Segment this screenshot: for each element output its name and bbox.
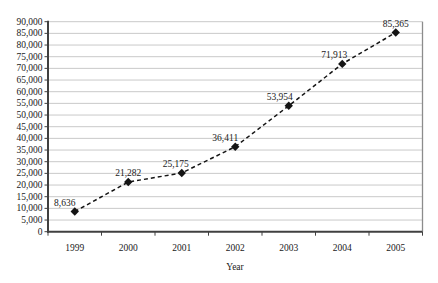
data-point-label: 21,282 xyxy=(115,168,141,178)
y-tick-label: 10,000 xyxy=(16,203,42,213)
axes-layer xyxy=(45,21,423,236)
y-tick-label: 85,000 xyxy=(16,28,42,38)
data-point-label: 71,913 xyxy=(321,50,347,60)
y-tick-label: 25,000 xyxy=(16,168,42,178)
data-point-marker xyxy=(392,28,400,36)
y-tick-label: 60,000 xyxy=(16,87,42,97)
data-point-label: 53,954 xyxy=(267,92,293,102)
data-point-marker xyxy=(178,169,186,177)
y-tick-label: 50,000 xyxy=(16,110,42,120)
y-tick-label: 20,000 xyxy=(16,180,42,190)
x-tick-label: 2002 xyxy=(226,243,245,253)
x-tick-label: 1999 xyxy=(65,243,84,253)
y-tick-label: 40,000 xyxy=(16,133,42,143)
x-tick-label: 2001 xyxy=(172,243,191,253)
data-point-label: 8,636 xyxy=(54,198,76,208)
y-tick-label: 45,000 xyxy=(16,122,42,132)
x-tick-label: 2005 xyxy=(386,243,405,253)
y-tick-label: 90,000 xyxy=(16,17,42,27)
x-tick-label: 2000 xyxy=(119,243,138,253)
labels-layer: 05,00010,00015,00020,00025,00030,00035,0… xyxy=(16,17,409,254)
y-tick-label: 30,000 xyxy=(16,157,42,167)
y-tick-label: 0 xyxy=(38,227,43,237)
x-tick-label: 2004 xyxy=(333,243,352,253)
y-tick-label: 35,000 xyxy=(16,145,42,155)
chart-figure: 05,00010,00015,00020,00025,00030,00035,0… xyxy=(0,0,438,283)
y-tick-label: 75,000 xyxy=(16,52,42,62)
data-point-marker xyxy=(338,60,346,68)
y-tick-label: 70,000 xyxy=(16,63,42,73)
y-tick-label: 55,000 xyxy=(16,98,42,108)
gridlines-layer xyxy=(48,22,423,232)
line-chart: 05,00010,00015,00020,00025,00030,00035,0… xyxy=(0,0,438,283)
y-tick-label: 65,000 xyxy=(16,75,42,85)
x-tick-label: 2003 xyxy=(279,243,298,253)
data-point-label: 36,411 xyxy=(212,133,238,143)
y-tick-label: 5,000 xyxy=(21,215,43,225)
x-axis-title: Year xyxy=(226,262,244,272)
y-tick-label: 15,000 xyxy=(16,192,42,202)
data-point-label: 25,175 xyxy=(163,159,189,169)
data-point-label: 85,365 xyxy=(383,19,409,29)
y-tick-label: 80,000 xyxy=(16,40,42,50)
